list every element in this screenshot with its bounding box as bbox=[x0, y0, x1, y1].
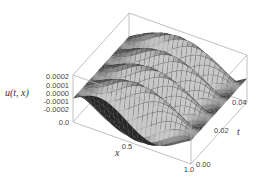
z-tick-label: -0.0002 bbox=[44, 105, 69, 114]
x-tick-label: 0.0 bbox=[59, 118, 69, 127]
z-axis-ticks: 0.0002 0.0001 0.0000 -0.0001 -0.0002 bbox=[44, 72, 69, 114]
t-tick-label: 0.00 bbox=[196, 160, 211, 169]
z-axis-label: u(t, x) bbox=[5, 87, 30, 99]
t-tick-label: 0.02 bbox=[214, 126, 229, 135]
t-tick-label: 0.04 bbox=[232, 98, 247, 107]
x-axis-label: x bbox=[114, 147, 120, 158]
x-tick-label: 0.5 bbox=[122, 142, 132, 151]
x-tick-label: 1.0 bbox=[184, 165, 194, 174]
t-axis-label: t bbox=[237, 126, 240, 137]
surface-plot: 0.0002 0.0001 0.0000 -0.0001 -0.0002 u(t… bbox=[0, 0, 263, 183]
surface-patch bbox=[73, 97, 79, 99]
z-tick-label: 0.0002 bbox=[46, 72, 69, 81]
